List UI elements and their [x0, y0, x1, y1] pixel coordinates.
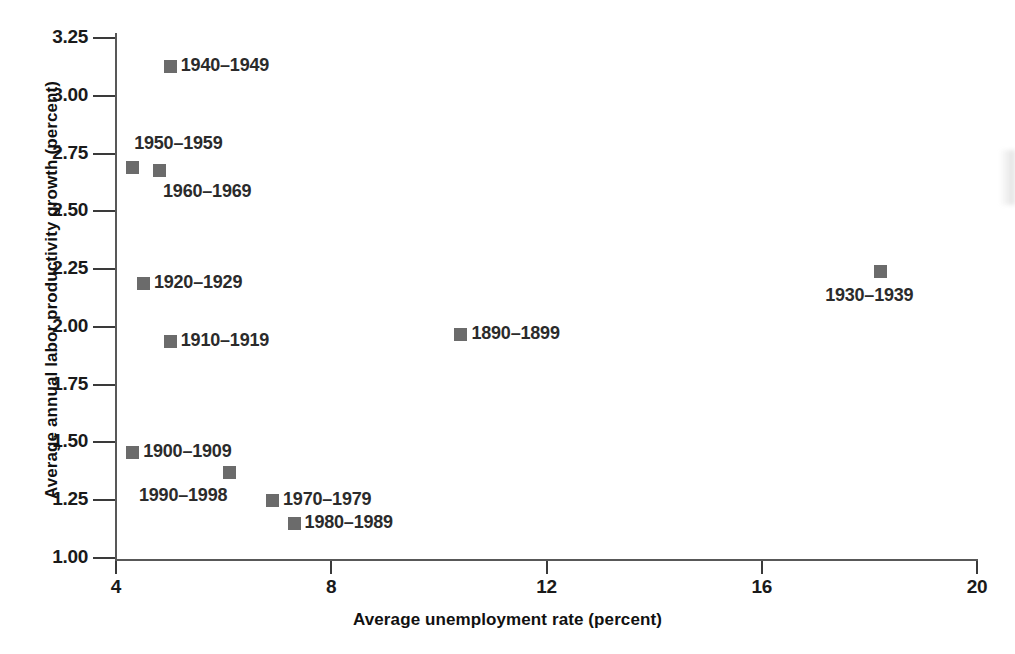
x-tick-label: 4	[86, 576, 146, 598]
x-tick-label: 8	[301, 576, 361, 598]
x-tick-label: 20	[947, 576, 1007, 598]
y-tick-mark	[93, 153, 115, 155]
data-point-label: 1900–1909	[143, 441, 231, 462]
x-tick-mark	[330, 561, 332, 574]
data-point-label: 1920–1929	[154, 272, 242, 293]
y-tick-mark	[93, 557, 115, 559]
y-tick-mark	[93, 95, 115, 97]
scan-artifact	[999, 150, 1015, 205]
y-tick-mark	[93, 441, 115, 443]
data-point-label: 1990–1998	[139, 485, 227, 506]
data-point-marker	[126, 161, 139, 174]
x-tick-mark	[546, 561, 548, 574]
data-point-marker	[137, 277, 150, 290]
scatter-chart-figure: 1.001.251.501.752.002.252.502.753.003.25…	[0, 0, 1015, 654]
y-axis-title: Average annual labor productivity growth…	[42, 10, 62, 570]
y-tick-mark	[93, 326, 115, 328]
data-point-marker	[454, 328, 467, 341]
data-point-marker	[223, 466, 236, 479]
data-point-marker	[266, 494, 279, 507]
x-tick-mark	[761, 561, 763, 574]
data-point-label: 1980–1989	[305, 512, 393, 533]
data-point-label: 1960–1969	[163, 181, 251, 202]
data-point-marker	[153, 164, 166, 177]
y-tick-mark	[93, 210, 115, 212]
x-tick-label: 16	[732, 576, 792, 598]
data-point-marker	[874, 265, 887, 278]
y-axis-line	[115, 33, 117, 561]
data-point-label: 1930–1939	[825, 285, 913, 306]
data-point-label: 1970–1979	[283, 489, 371, 510]
data-point-marker	[164, 60, 177, 73]
data-point-label: 1940–1949	[181, 55, 269, 76]
x-axis-title: Average unemployment rate (percent)	[0, 610, 1015, 630]
y-tick-mark	[93, 37, 115, 39]
y-tick-mark	[93, 384, 115, 386]
data-point-marker	[126, 446, 139, 459]
x-tick-label: 12	[517, 576, 577, 598]
data-point-label: 1910–1919	[181, 330, 269, 351]
x-tick-mark	[976, 561, 978, 574]
y-tick-mark	[93, 499, 115, 501]
data-point-label: 1950–1959	[134, 133, 222, 154]
x-tick-mark	[115, 561, 117, 574]
data-point-marker	[164, 335, 177, 348]
data-point-marker	[288, 517, 301, 530]
y-tick-mark	[93, 268, 115, 270]
plot-area: 1.001.251.501.752.002.252.502.753.003.25…	[0, 0, 1015, 654]
data-point-label: 1890–1899	[471, 323, 559, 344]
